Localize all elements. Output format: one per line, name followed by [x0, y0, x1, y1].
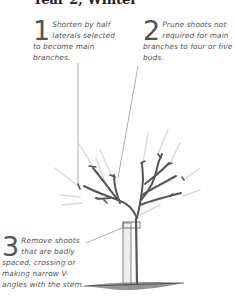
tree-illustration — [0, 0, 235, 307]
leader-line-2 — [118, 66, 138, 178]
leader-line-3 — [86, 228, 122, 243]
pruned-shoots — [55, 130, 200, 215]
trunk — [136, 218, 137, 285]
leader-lines — [78, 63, 138, 243]
